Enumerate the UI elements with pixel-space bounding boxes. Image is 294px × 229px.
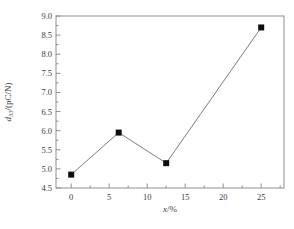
y-tick-label: 4.5: [41, 183, 52, 193]
line-chart: 05101520254.55.05.56.06.57.07.58.08.59.0…: [0, 0, 294, 229]
x-axis-label: x/%: [162, 204, 178, 214]
x-tick-label: 5: [107, 192, 111, 202]
data-line: [71, 27, 261, 174]
plot-frame: [56, 16, 284, 188]
x-tick-label: 15: [181, 192, 190, 202]
data-point-marker: [68, 172, 74, 178]
y-axis-unit: /(pC/N): [3, 82, 13, 110]
y-tick-label: 9.0: [41, 11, 52, 21]
y-tick-label: 5.5: [41, 145, 52, 155]
x-tick-label: 25: [257, 192, 266, 202]
x-tick-label: 20: [219, 192, 228, 202]
chart-figure: 05101520254.55.05.56.06.57.07.58.08.59.0…: [0, 0, 294, 229]
y-tick-label: 7.5: [41, 68, 52, 78]
y-tick-label: 6.5: [41, 107, 52, 117]
y-tick-label: 7.0: [41, 87, 52, 97]
y-tick-label: 5.0: [41, 164, 52, 174]
x-tick-label: 0: [69, 192, 73, 202]
data-point-marker: [258, 24, 264, 30]
y-tick-label: 6.0: [41, 126, 52, 136]
x-tick-label: 10: [143, 192, 152, 202]
data-point-marker: [163, 160, 169, 166]
y-tick-label: 8.5: [41, 30, 52, 40]
x-axis-unit: /%: [167, 204, 178, 214]
y-axis-label: d33/(pC/N): [3, 82, 14, 121]
data-point-marker: [116, 130, 122, 136]
y-tick-label: 8.0: [41, 49, 52, 59]
